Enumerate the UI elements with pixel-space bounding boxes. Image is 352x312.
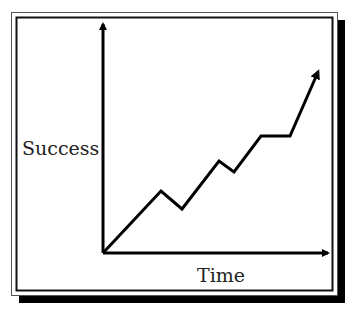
y-axis-label: Success	[22, 137, 99, 159]
success-time-chart: Success Time	[0, 0, 352, 312]
x-axis-label: Time	[197, 264, 245, 286]
